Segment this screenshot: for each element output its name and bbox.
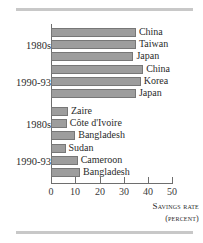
x-tick-50 [172,177,173,183]
x-axis-title: Savings rate [103,200,199,212]
bar-g2-b0 [51,107,68,116]
x-tick-40 [148,177,149,183]
x-axis-line [51,183,173,184]
group-label-1: 1980s [0,40,51,52]
bar-label-g0-b2: Japan [136,50,159,62]
bar-label-g1-b0: China [146,63,170,75]
bar-g1-b2 [51,89,136,98]
bar-label-g0-b1: Taiwan [139,38,168,50]
x-tick-label-10: 10 [62,186,88,198]
x-tick-label-20: 20 [87,186,113,198]
bar-g1-b0 [51,65,143,74]
bar-g1-b1 [51,77,141,86]
savings-rate-chart-figure: 0 10 20 30 40 50 1980s China Taiwan Japa… [0,0,203,243]
bar-g0-b2 [51,52,133,61]
x-axis-unit: (percent) [103,213,199,224]
group-label-2: 1990-93 [0,77,51,89]
group-label-4: 1990-93 [0,156,51,168]
bar-g0-b1 [51,40,136,49]
bar-label-g2-b2: Bangladesh [78,129,125,141]
x-tick-10 [75,177,76,183]
x-tick-0 [51,177,52,183]
bar-g0-b0 [51,28,136,37]
bar-g3-b0 [51,144,66,153]
x-tick-label-50: 50 [159,186,185,198]
bar-g3-b2 [51,168,80,177]
bar-label-g3-b2: Bangladesh [83,166,130,178]
bar-label-g2-b0: Zaire [71,105,92,117]
group-label-3: 1980s [0,119,51,131]
bar-g3-b1 [51,156,78,165]
bar-label-g2-b1: Côte d'Ivoire [70,117,122,129]
plot-area: 0 10 20 30 40 50 1980s China Taiwan Japa… [0,0,203,243]
bar-label-g1-b2: Japan [139,87,162,99]
bar-g2-b2 [51,131,75,140]
bar-label-g3-b0: Sudan [69,142,94,154]
bar-label-g1-b1: Korea [144,75,168,87]
bar-label-g3-b1: Cameroon [81,154,123,166]
x-tick-label-30: 30 [111,186,137,198]
x-tick-label-0: 0 [38,186,64,198]
bar-g2-b1 [51,119,67,128]
x-tick-label-40: 40 [135,186,161,198]
bar-label-g0-b0: China [139,26,163,38]
